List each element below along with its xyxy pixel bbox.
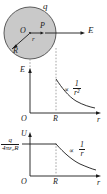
field-plot-y-label: E: [20, 66, 25, 74]
field-prop-symbol: ∝: [64, 87, 69, 94]
potential-value-denominator: 4πε₀R: [1, 144, 19, 152]
field-vector-label: E: [88, 26, 94, 35]
sphere-center-label: O: [20, 27, 26, 35]
charge-label: q: [43, 2, 48, 11]
potential-value-numerator: q: [1, 137, 19, 144]
field-plot-radius-tick-label: R: [53, 115, 58, 123]
field-prop-denominator: r²: [73, 88, 81, 97]
field-prop-numerator: 1: [73, 80, 81, 88]
field-plot-x-label: r: [97, 116, 100, 124]
potential-plot-y-axis-arrow: [28, 132, 32, 137]
potential-plot-radius-tick-label: R: [53, 178, 58, 186]
physics-figure: q O P R r E E O R r ∝ 1 r² U q 4πε₀R O R…: [0, 0, 107, 194]
field-plot-y-axis-arrow: [28, 68, 32, 73]
sphere-radius-label: R: [13, 47, 18, 55]
potential-plot-y-label: U: [21, 130, 27, 138]
potential-curve: [56, 144, 96, 170]
potential-prop-symbol: ∝: [69, 148, 74, 155]
sphere-center-dot: [29, 32, 31, 34]
field-arrow-head: [81, 31, 86, 35]
field-prop-fraction: 1 r²: [73, 80, 81, 97]
potential-prop-numerator: 1: [79, 141, 85, 149]
field-plot-origin-label: O: [21, 115, 27, 123]
inner-radius-label: r: [32, 36, 35, 43]
potential-prop-denominator: r: [79, 149, 85, 158]
potential-plot-origin-label: O: [21, 178, 27, 186]
potential-prop-fraction: 1 r: [79, 141, 85, 158]
potential-value-fraction: q 4πε₀R: [1, 137, 19, 152]
point-p-label: P: [40, 22, 45, 30]
potential-plot-x-label: r: [97, 179, 100, 187]
